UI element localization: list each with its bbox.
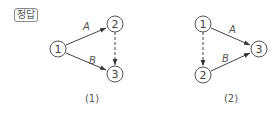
node-3: 3 <box>251 41 267 57</box>
edge-label-A: A <box>228 24 236 35</box>
edge-label-A: A <box>82 21 90 32</box>
svg-text:1: 1 <box>55 43 62 56</box>
edge-label-B: B <box>89 55 96 66</box>
svg-text:1: 1 <box>200 18 207 31</box>
node-2: 2 <box>107 16 123 32</box>
network-diagram: A B 1 2 3 (1) A B 1 2 3 (2) <box>0 0 274 117</box>
node-1: 1 <box>50 41 66 57</box>
panel-caption: (1) <box>85 93 99 104</box>
node-1: 1 <box>195 16 211 32</box>
svg-text:3: 3 <box>112 68 119 81</box>
panel-caption: (2) <box>224 93 238 104</box>
edge-label-B: B <box>222 53 229 64</box>
edge-1-3-B <box>66 53 106 70</box>
edge-2-3-B <box>211 53 250 71</box>
svg-text:2: 2 <box>112 18 119 31</box>
node-3: 3 <box>107 66 123 82</box>
panel-1: A B 1 2 3 (1) <box>50 16 123 104</box>
svg-text:3: 3 <box>256 43 263 56</box>
panel-2: A B 1 2 3 (2) <box>195 16 267 104</box>
svg-text:2: 2 <box>200 69 207 82</box>
node-2: 2 <box>195 67 211 83</box>
